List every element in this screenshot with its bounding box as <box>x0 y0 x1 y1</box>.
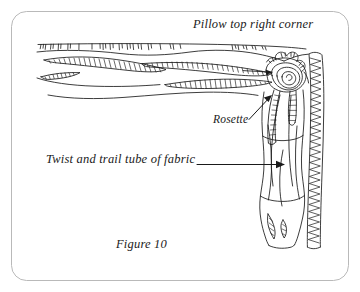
figure-title: Pillow top right corner <box>193 17 313 32</box>
annotation-label-tube: Twist and trail tube of fabric <box>46 152 195 167</box>
annotation-label-rosette: Rosette <box>213 113 248 125</box>
figure-illustration <box>0 0 360 292</box>
figure-container: Pillow top right corner Rosette Twist an… <box>0 0 360 292</box>
figure-frame <box>12 12 349 281</box>
figure-caption: Figure 10 <box>116 237 167 252</box>
